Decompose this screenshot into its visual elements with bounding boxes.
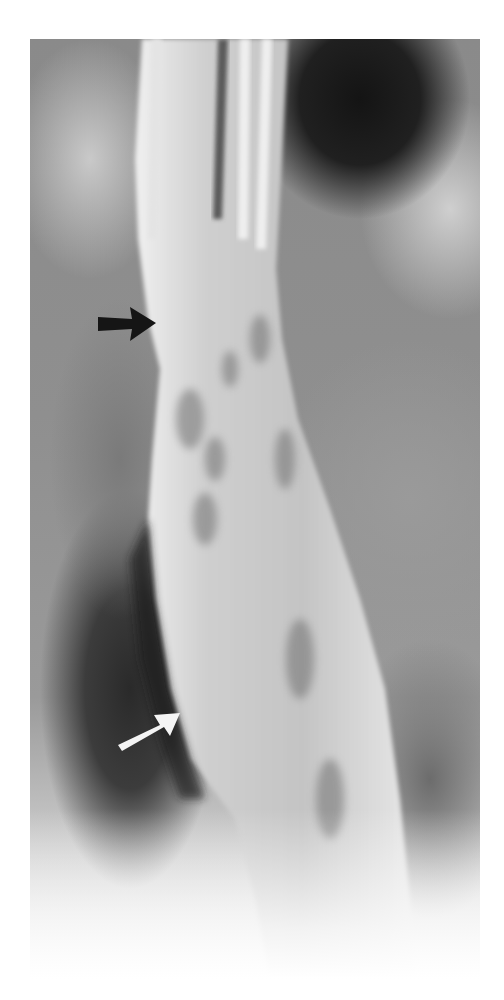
radiograph-image — [30, 39, 480, 979]
bottom-fade — [30, 809, 480, 979]
